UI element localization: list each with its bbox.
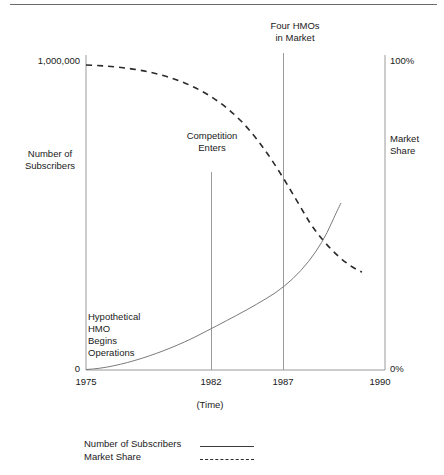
legend-label-market-share: Market Share — [84, 450, 141, 463]
annotation-competition-enters: Competition Enters — [160, 130, 264, 154]
series-market-share-curve — [86, 65, 362, 272]
y-axis-left-min-label: 0 — [52, 363, 80, 375]
legend-item-number-of-subscribers: Number of Subscribers — [84, 437, 324, 450]
x-tick-label-1982: 1982 — [189, 376, 233, 388]
y-axis-right-title: Market Share — [390, 133, 444, 157]
x-tick-label-1990: 1990 — [358, 376, 402, 388]
annotation-hypothetical-hmo-begins-operations: Hypothetical HMO Begins Operations — [88, 311, 192, 359]
chart-legend: Number of Subscribers Market Share — [84, 437, 324, 463]
x-tick-label-1975: 1975 — [64, 376, 108, 388]
y-axis-left-title: Number of Subscribers — [18, 148, 82, 172]
legend-swatch-solid-line — [200, 446, 254, 447]
legend-label-number-of-subscribers: Number of Subscribers — [84, 437, 181, 450]
y-axis-left-max-label: 1,000,000 — [8, 55, 80, 67]
y-axis-right-min-label: 0% — [390, 363, 444, 375]
legend-item-market-share: Market Share — [84, 450, 324, 463]
y-axis-right-max-label: 100% — [390, 55, 444, 67]
x-tick-label-1987: 1987 — [261, 376, 305, 388]
chart-figure: Four HMOs in Market 1,000,000 0 Number o… — [0, 0, 444, 475]
legend-swatch-dashed-line — [200, 459, 254, 460]
x-axis-title: (Time) — [160, 399, 260, 411]
annotation-four-hmos-in-market: Four HMOs in Market — [230, 20, 360, 44]
